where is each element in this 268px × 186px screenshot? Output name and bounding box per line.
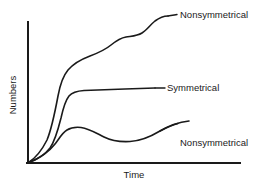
x-axis-label: Time bbox=[124, 169, 145, 180]
chart-canvas: Nonsymmetrical Symmetrical Nonsymmetrica… bbox=[0, 0, 268, 186]
series-label-bottom: Nonsymmetrical bbox=[180, 137, 248, 148]
series-label-middle: Symmetrical bbox=[167, 82, 219, 93]
leader-line-bottom bbox=[160, 124, 178, 132]
leader-line-top bbox=[168, 15, 177, 17]
growth-curves-figure: Nonsymmetrical Symmetrical Nonsymmetrica… bbox=[0, 0, 268, 186]
series-label-top: Nonsymmetrical bbox=[180, 9, 248, 20]
y-axis-label: Numbers bbox=[7, 75, 18, 114]
